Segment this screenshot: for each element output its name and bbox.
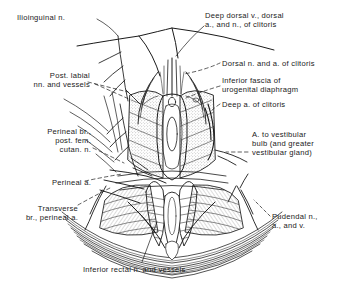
leader-dorsal-n-a xyxy=(184,63,220,74)
label-perineal-br-post-fem-cutan-n: Perineal br., post. fem. cutan. n. xyxy=(13,127,91,155)
anatomical-figure: Ilioinguinal n. Deep dorsal v., dorsal a… xyxy=(0,0,343,282)
leader-ilioinguinal xyxy=(97,19,118,36)
label-pudendal-n-a-v: Pudendal n., a., and v. xyxy=(272,212,318,230)
leader-post-labial xyxy=(88,82,128,92)
label-deep-dorsal-vessels-clitoris: Deep dorsal v., dorsal a., and n., of cl… xyxy=(205,11,284,29)
label-ilioinguinal-n: Ilioinguinal n. xyxy=(17,13,65,22)
mons-contour xyxy=(77,28,274,76)
label-perineal-a: Perineal a. xyxy=(13,178,91,187)
label-inferior-fascia-urogenital-diaphragm: Inferior fascia of urogenital diaphragm xyxy=(222,76,298,94)
vestibular-bulb-artery xyxy=(215,150,247,165)
leader-pudendal xyxy=(254,200,270,216)
label-transverse-br-perineal-a: Transverse br., perineal a. xyxy=(5,204,78,222)
label-deep-a-clitoris: Deep a. of clitoris xyxy=(222,100,285,109)
label-inferior-rectal-n-vessels: Inferior rectal n. and vessels xyxy=(83,265,185,274)
label-post-labial-nn-vessels: Post. labial nn. and vessels xyxy=(18,71,90,89)
leader-post-labial-2 xyxy=(95,84,129,99)
label-a-to-vestibular-bulb: A. to vestibular bulb (and greater vesti… xyxy=(252,130,314,158)
label-dorsal-n-a-clitoris: Dorsal n. and a. of clitoris xyxy=(222,59,315,68)
